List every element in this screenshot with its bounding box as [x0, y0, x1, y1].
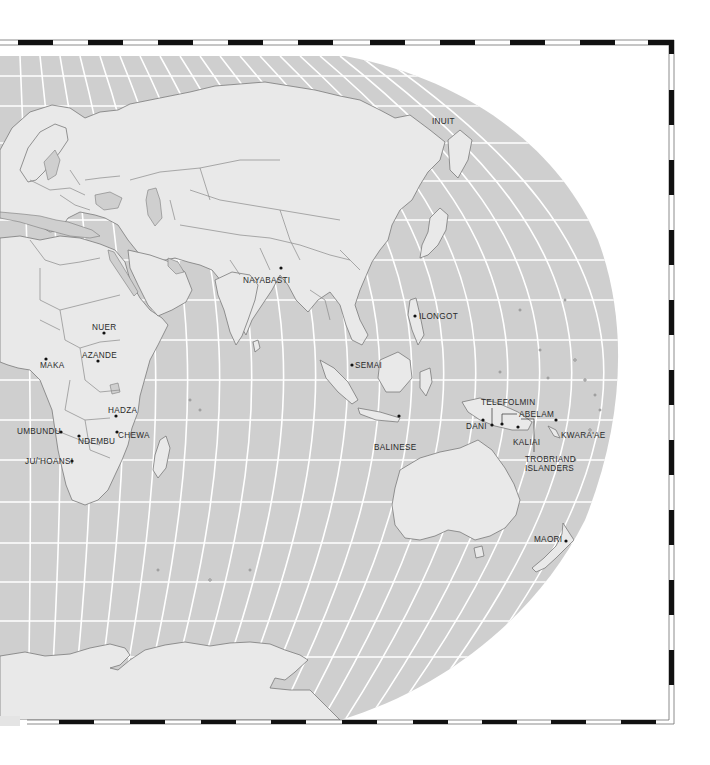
label-trobriand: TROBRIAND — [525, 455, 576, 464]
label-hadza: HADZA — [108, 406, 137, 415]
label-chewa: CHEWA — [118, 431, 150, 440]
label-dani: DANI — [466, 422, 487, 431]
label-kwaraae: KWARA'AE — [561, 431, 606, 440]
label-telefolmin: TELEFOLMIN — [481, 398, 535, 407]
label-abelam: ABELAM — [519, 410, 554, 419]
label-maka: MAKA — [40, 361, 65, 370]
label-nayabasti: NAYABASTI — [243, 276, 290, 285]
label-umbundu: UMBUNDU — [17, 427, 61, 436]
label-islanders: ISLANDERS — [525, 464, 574, 473]
label-semai: SEMAI — [355, 361, 382, 370]
tasmania — [474, 546, 484, 558]
label-balinese: BALINESE — [374, 443, 417, 452]
label-ndembu: NDEMBU — [78, 437, 115, 446]
world-map: INUIT NAYABASTI ILONGOT NUER AZANDE MAKA… — [0, 0, 710, 765]
label-inuit: INUIT — [432, 117, 455, 126]
label-juhoansi: JU/'HOANSI — [25, 457, 73, 466]
label-nuer: NUER — [92, 323, 116, 332]
label-maori: MAORI — [534, 535, 562, 544]
label-azande: AZANDE — [82, 351, 117, 360]
lake-victoria — [110, 383, 120, 394]
label-ilongot: ILONGOT — [419, 312, 458, 321]
label-kaliai: KALIAI — [513, 438, 540, 447]
